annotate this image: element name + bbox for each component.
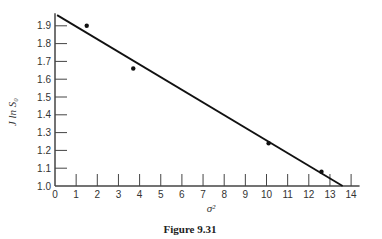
figure-caption: Figure 9.31 <box>164 223 217 235</box>
data-point <box>131 66 135 70</box>
x-tick-label: 4 <box>137 189 143 200</box>
y-axis-label: J ln S₀ <box>6 98 18 126</box>
x-tick-label: 10 <box>261 189 273 200</box>
axes <box>55 13 360 186</box>
x-tick-label: 2 <box>95 189 101 200</box>
x-tick-label: 6 <box>179 189 185 200</box>
data-point <box>85 24 89 28</box>
y-tick-label: 1.4 <box>37 109 51 120</box>
x-axis-ticks: 01234567891011121314 <box>52 174 357 200</box>
x-tick-label: 11 <box>282 189 293 200</box>
y-tick-label: 1.7 <box>37 56 51 67</box>
y-tick-label: 1.2 <box>37 145 51 156</box>
x-tick-label: 7 <box>200 189 206 200</box>
x-tick-label: 13 <box>324 189 336 200</box>
x-tick-label: 1 <box>73 189 79 200</box>
x-axis-label: σ² <box>207 202 216 214</box>
y-tick-label: 1.5 <box>37 92 51 103</box>
y-tick-label: 1.1 <box>37 163 51 174</box>
chart: 1.01.11.21.31.41.51.61.71.81.9 012345678… <box>0 0 382 239</box>
x-tick-label: 14 <box>346 189 358 200</box>
y-tick-label: 1.0 <box>37 181 51 192</box>
y-tick-label: 1.3 <box>37 127 51 138</box>
x-tick-label: 8 <box>221 189 227 200</box>
x-tick-label: 0 <box>52 189 58 200</box>
y-axis-ticks: 1.01.11.21.31.41.51.61.71.81.9 <box>37 20 67 191</box>
x-tick-label: 3 <box>116 189 122 200</box>
y-tick-label: 1.8 <box>37 38 51 49</box>
y-tick-label: 1.6 <box>37 74 51 85</box>
x-tick-label: 9 <box>243 189 249 200</box>
series <box>57 15 343 186</box>
x-tick-label: 5 <box>158 189 164 200</box>
x-tick-label: 12 <box>303 189 315 200</box>
fit-line <box>57 15 343 186</box>
y-tick-label: 1.9 <box>37 20 51 31</box>
